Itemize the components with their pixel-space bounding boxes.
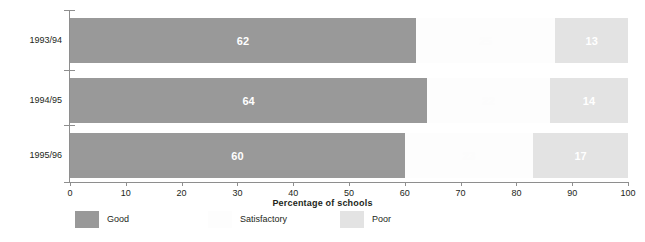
stacked-bar-chart: 622513642214602317 1993/941994/951995/96… [0, 0, 645, 242]
x-axis-tick [349, 182, 350, 186]
x-axis-tick [237, 182, 238, 186]
legend-label: Good [107, 214, 129, 224]
plot-area: 622513642214602317 [70, 0, 628, 182]
bar-satisfactory-1994-95: 22 [427, 78, 550, 123]
bar-satisfactory-1995-96: 23 [405, 133, 533, 178]
y-axis-label-1993-94: 1993/94 [0, 35, 62, 45]
x-axis-tick [461, 182, 462, 186]
legend-label: Poor [372, 214, 391, 224]
bar-value-label: 22 [482, 95, 494, 107]
x-axis-label-50: 50 [329, 188, 369, 198]
x-axis-label-80: 80 [496, 188, 536, 198]
y-axis-top-cap [64, 10, 75, 11]
legend-swatch-satisfactory-icon [208, 211, 232, 228]
x-axis-tick [628, 182, 629, 186]
bar-poor-1993-94: 13 [555, 18, 628, 63]
legend-swatch-good-icon [75, 211, 99, 228]
x-axis-tick [70, 182, 71, 186]
x-axis-tick [293, 182, 294, 186]
x-axis-label-30: 30 [217, 188, 257, 198]
bar-good-1994-95: 64 [70, 78, 427, 123]
x-axis-label-10: 10 [106, 188, 146, 198]
x-axis-label-20: 20 [162, 188, 202, 198]
x-axis-label-40: 40 [273, 188, 313, 198]
x-axis-label-0: 0 [50, 188, 90, 198]
x-axis-tick [182, 182, 183, 186]
bar-good-1995-96: 60 [70, 133, 405, 178]
y-axis-label-1994-95: 1994/95 [0, 95, 62, 105]
x-axis-title: Percentage of schools [0, 198, 645, 208]
x-axis-tick [126, 182, 127, 186]
x-axis-label-100: 100 [608, 188, 645, 198]
bar-value-label: 13 [586, 35, 598, 47]
bar-poor-1995-96: 17 [533, 133, 628, 178]
x-axis-label-70: 70 [441, 188, 481, 198]
bar-value-label: 25 [480, 35, 492, 47]
bar-poor-1994-95: 14 [550, 78, 628, 123]
legend-label: Satisfactory [240, 214, 287, 224]
chart-legend: GoodSatisfactoryPoor [0, 211, 645, 233]
bar-good-1993-94: 62 [70, 18, 416, 63]
x-axis-tick [516, 182, 517, 186]
x-axis-label-90: 90 [552, 188, 592, 198]
bar-value-label: 23 [463, 150, 475, 162]
y-axis-line [69, 10, 70, 182]
bar-satisfactory-1993-94: 25 [416, 18, 556, 63]
bar-value-label: 62 [237, 35, 249, 47]
x-axis-tick [572, 182, 573, 186]
x-axis-tick [405, 182, 406, 186]
y-axis-label-1995-96: 1995/96 [0, 150, 62, 160]
y-axis-tick [64, 125, 75, 126]
bar-value-label: 60 [231, 150, 243, 162]
x-axis-label-60: 60 [385, 188, 425, 198]
bar-value-label: 17 [574, 150, 586, 162]
bar-value-label: 14 [583, 95, 595, 107]
legend-swatch-poor-icon [340, 211, 364, 228]
bar-value-label: 64 [242, 95, 254, 107]
y-axis-tick [64, 70, 75, 71]
